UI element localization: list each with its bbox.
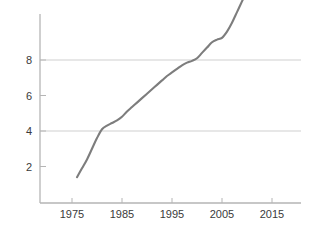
x-tick-label-2015: 2015 bbox=[260, 208, 284, 220]
y-tick-label-8: 8 bbox=[26, 54, 32, 66]
x-tick-label-1995: 1995 bbox=[160, 208, 184, 220]
x-tick-label-1985: 1985 bbox=[110, 208, 134, 220]
y-tick-label-4: 4 bbox=[26, 125, 32, 137]
y-tick-label-6: 6 bbox=[26, 90, 32, 102]
chart-canvas: 246812 19751985199520052015 bbox=[0, 0, 309, 245]
y-tick-label-2: 2 bbox=[26, 161, 32, 173]
x-tick-label-2005: 2005 bbox=[210, 208, 234, 220]
line-chart: 246812 19751985199520052015 bbox=[0, 0, 309, 245]
x-tick-label-1975: 1975 bbox=[60, 208, 84, 220]
